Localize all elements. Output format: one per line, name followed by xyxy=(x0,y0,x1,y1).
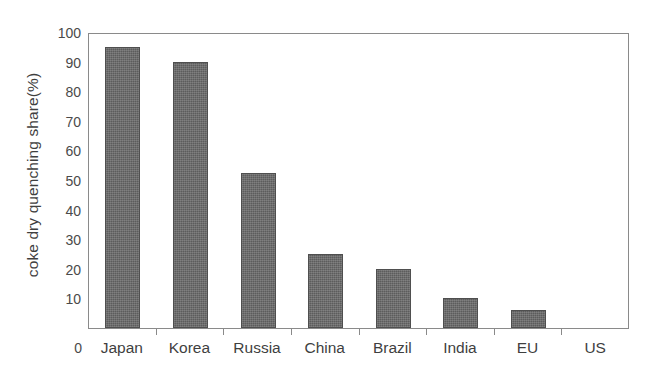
bar-korea xyxy=(173,62,208,328)
y-axis-tick-label: 20 xyxy=(41,263,81,277)
bar-eu xyxy=(511,310,546,328)
x-axis-label-brazil: Brazil xyxy=(359,337,427,359)
x-axis-tick xyxy=(561,329,562,335)
bars-group xyxy=(89,34,628,328)
y-axis-tick-label: 70 xyxy=(41,115,81,129)
y-axis-tick-label: 30 xyxy=(41,233,81,247)
y-axis-tick-label: 50 xyxy=(41,174,81,188)
x-axis-label-russia: Russia xyxy=(223,337,291,359)
x-axis-category-labels: JapanKoreaRussiaChinaBrazilIndiaEUUS xyxy=(88,337,629,363)
x-axis-tick xyxy=(291,329,292,335)
x-axis-label-japan: Japan xyxy=(88,337,156,359)
y-axis-tick-label: 100 xyxy=(41,26,81,40)
x-axis-tick xyxy=(359,329,360,335)
x-axis-tick xyxy=(494,329,495,335)
bar-japan xyxy=(105,47,140,328)
x-axis-label-china: China xyxy=(291,337,359,359)
x-axis-tick xyxy=(156,329,157,335)
x-axis-label-india: India xyxy=(426,337,494,359)
bar-china xyxy=(308,254,343,328)
plot-area xyxy=(88,33,629,329)
y-axis-tick-label: 60 xyxy=(41,144,81,158)
y-axis-tick-labels: 102030405060708090100 xyxy=(0,0,88,380)
x-axis-ticks xyxy=(88,329,629,337)
y-axis-tick-label: 90 xyxy=(41,56,81,70)
y-axis-tick-label: 10 xyxy=(41,292,81,306)
bar-india xyxy=(443,298,478,328)
x-axis-label-us: US xyxy=(561,337,629,359)
y-axis-tick-label: 40 xyxy=(41,204,81,218)
x-axis-label-korea: Korea xyxy=(156,337,224,359)
bar-brazil xyxy=(376,269,411,328)
x-axis-label-eu: EU xyxy=(494,337,562,359)
y-axis-tick-label: 80 xyxy=(41,85,81,99)
bar-russia xyxy=(241,173,276,328)
x-axis-tick xyxy=(426,329,427,335)
x-axis-tick xyxy=(223,329,224,335)
y-axis-origin-label: 0 xyxy=(56,337,82,359)
bar-chart-figure: coke dry quenching share(%) 102030405060… xyxy=(0,0,665,380)
